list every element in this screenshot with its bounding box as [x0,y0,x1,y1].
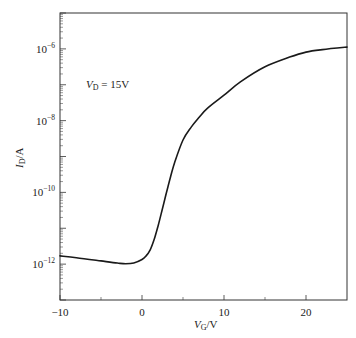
x-axis-label: VG/V [194,318,218,332]
x-tick-label: 0 [139,306,145,318]
y-tick-label: 10−10 [32,184,55,198]
y-tick-label: 10−8 [36,113,55,127]
plot-frame [60,13,347,300]
annotation-vd: VD = 15V [86,78,129,92]
y-tick-labels: 10−610−810−1010−12 [32,41,55,270]
major-ticks [60,13,306,300]
x-tick-label: 20 [301,306,313,318]
y-axis-label: ID/A [13,147,27,169]
chart-canvas: −1001020 10−610−810−1010−12 VD = 15V VG/… [0,0,356,338]
y-tick-label: 10−12 [32,256,55,270]
y-tick-label: 10−6 [36,41,55,55]
x-tick-label: −10 [51,306,69,318]
x-tick-label: 10 [219,306,231,318]
x-tick-labels: −1001020 [51,306,312,318]
